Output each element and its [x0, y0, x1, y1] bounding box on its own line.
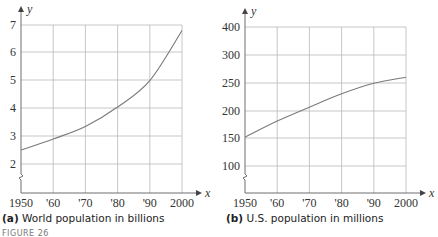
axis-break-icon [19, 174, 23, 180]
x-tick-label: 1950 [9, 196, 33, 210]
caption-b-prefix: (b) [226, 212, 243, 224]
y-tick-label: 5 [10, 73, 16, 87]
x-axis-label: x [428, 186, 435, 200]
caption-a-text: World population in billions [22, 212, 164, 224]
caption-b-text: U.S. population in millions [246, 212, 383, 224]
axis-break-icon [243, 174, 247, 180]
x-tick-label: '60 [46, 196, 60, 210]
x-tick-label: 2000 [170, 196, 194, 210]
y-tick-label: 3 [10, 129, 16, 143]
population-curve [245, 77, 406, 137]
y-tick-label: 2 [10, 157, 16, 171]
world-population-chart: 1950'60'70'80'902000234567yx [9, 2, 211, 210]
figure-label: FIGURE 26 [2, 229, 49, 237]
y-tick-label: 150 [222, 131, 240, 145]
y-tick-label: 200 [222, 104, 240, 118]
x-axis-label: x [204, 186, 211, 200]
x-axis-arrow-icon [196, 190, 202, 196]
y-tick-label: 400 [222, 20, 240, 34]
x-tick-label: 1950 [233, 196, 257, 210]
caption-a: (a) World population in billions [2, 212, 164, 224]
y-axis-arrow-icon [242, 8, 248, 14]
y-tick-label: 4 [10, 101, 16, 115]
x-axis-arrow-icon [420, 190, 426, 196]
population-curve [21, 31, 182, 151]
y-tick-label: 100 [222, 159, 240, 173]
caption-a-prefix: (a) [2, 212, 19, 224]
y-tick-label: 300 [222, 48, 240, 62]
x-tick-label: '90 [367, 196, 381, 210]
x-tick-label: '80 [111, 196, 125, 210]
x-tick-label: '70 [78, 196, 92, 210]
x-tick-label: '90 [143, 196, 157, 210]
y-tick-label: 250 [222, 76, 240, 90]
x-tick-label: 2000 [394, 196, 418, 210]
x-tick-label: '70 [302, 196, 316, 210]
y-axis-label: y [250, 4, 257, 18]
y-axis-arrow-icon [18, 6, 24, 12]
us-population-chart: 1950'60'70'80'902000100150200250300400yx [222, 4, 435, 210]
x-tick-label: '80 [335, 196, 349, 210]
y-axis-label: y [26, 2, 33, 16]
x-tick-label: '60 [270, 196, 284, 210]
population-charts: 1950'60'70'80'902000234567yx 1950'60'70'… [0, 0, 438, 237]
y-tick-label: 7 [10, 18, 16, 32]
y-tick-label: 6 [10, 45, 16, 59]
caption-b: (b) U.S. population in millions [226, 212, 383, 224]
